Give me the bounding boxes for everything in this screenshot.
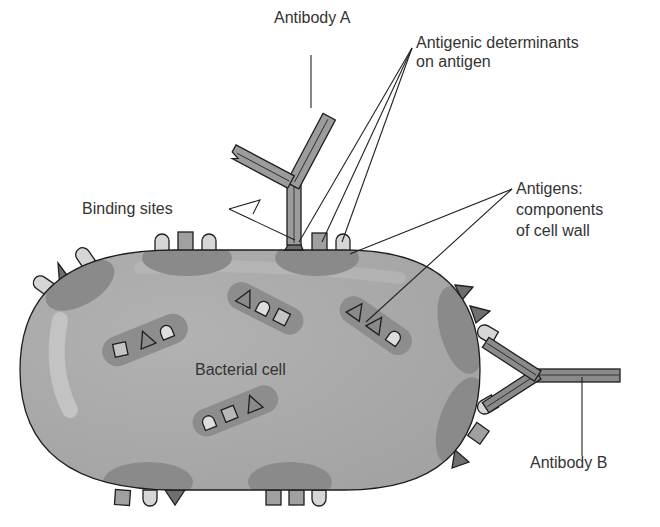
antigen-triangle-icon (165, 490, 185, 505)
antigen-dome-icon (336, 234, 350, 251)
label-antigens-2: components (516, 201, 603, 218)
label-antigenic-determinants-2: on antigen (416, 53, 491, 70)
antigen-square-icon (114, 490, 130, 506)
antigen-dome-icon (312, 490, 326, 506)
label-binding-sites: Binding sites (82, 200, 173, 217)
label-antigens-1: Antigens: (516, 180, 583, 197)
antigen-dome-icon (155, 234, 169, 251)
antigen-dome-icon (202, 234, 216, 251)
antigen-dome-icon (143, 490, 157, 506)
antigen-square-icon (289, 490, 304, 505)
antigen-triangle-icon (452, 450, 469, 468)
antigen-square-icon (178, 232, 193, 251)
antigen-square-icon (266, 490, 281, 505)
antibody-a (229, 113, 335, 250)
antibody-antigen-diagram: Antibody A Antigenic determinants on ant… (0, 0, 660, 527)
label-antibody-a: Antibody A (274, 9, 351, 26)
label-antigens-3: of cell wall (516, 222, 590, 239)
label-antibody-b: Antibody B (530, 454, 607, 471)
antibody-b (482, 337, 620, 412)
label-antigenic-determinants-1: Antigenic determinants (416, 34, 579, 51)
label-bacterial-cell: Bacterial cell (195, 361, 286, 378)
